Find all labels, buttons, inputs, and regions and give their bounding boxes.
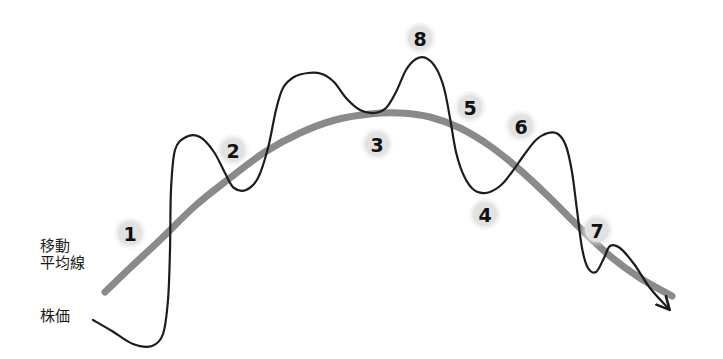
marker-number-8: 8 <box>413 28 426 50</box>
stock-price-label: 株価 <box>40 308 70 325</box>
marker-number-4: 4 <box>478 204 491 226</box>
price-line-path <box>93 57 668 347</box>
moving-average-label: 移動 平均線 <box>40 238 85 272</box>
moving-average-label-line1: 移動 <box>40 238 85 255</box>
stock-price-moving-average-diagram: 12345678 <box>0 0 723 359</box>
marker-number-7: 7 <box>590 220 603 242</box>
marker-number-5: 5 <box>463 97 476 119</box>
marker-number-1: 1 <box>123 223 136 245</box>
diagram-canvas: 12345678 移動 平均線 株価 <box>0 0 723 359</box>
marker-number-6: 6 <box>514 116 527 138</box>
marker-number-2: 2 <box>226 140 239 162</box>
moving-average-label-line2: 平均線 <box>40 255 85 272</box>
marker-number-3: 3 <box>370 134 383 156</box>
stock-price-curve <box>93 57 668 347</box>
